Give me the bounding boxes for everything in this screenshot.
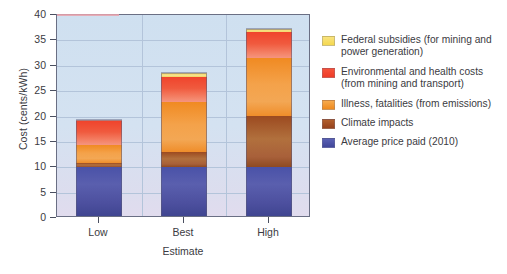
bar-segment[interactable]: [246, 116, 292, 167]
y-tick-label: 10: [2, 160, 46, 172]
x-tick: [183, 217, 184, 223]
x-tick-label: Low: [58, 226, 138, 238]
legend-item-label: Climate impacts: [341, 117, 413, 129]
legend-swatch-icon: [322, 138, 335, 148]
y-tick-label: 30: [2, 59, 46, 71]
y-tick-label: 40: [2, 8, 46, 20]
category-divider: [142, 15, 143, 216]
bar-high[interactable]: [246, 13, 292, 216]
legend-swatch-icon: [322, 100, 335, 110]
bar-segment[interactable]: [161, 77, 207, 102]
legend-item-label: Environmental and health costs (from min…: [341, 66, 507, 91]
y-tick-label: 20: [2, 110, 46, 122]
bar-best[interactable]: [161, 13, 207, 216]
legend-item[interactable]: Federal subsidies (for mining and power …: [322, 34, 507, 59]
legend-item[interactable]: Average price paid (2010): [322, 136, 507, 148]
legend-item[interactable]: Climate impacts: [322, 117, 507, 129]
x-axis-title: Estimate: [56, 245, 310, 257]
bar-segment[interactable]: [161, 102, 207, 152]
bar-cap: [246, 28, 292, 29]
bar-low[interactable]: [76, 13, 122, 216]
bar-segment[interactable]: [161, 152, 207, 167]
figure: Cost (cents/kWh) 0510152025303540 LowBes…: [0, 0, 507, 274]
bar-segment[interactable]: [246, 32, 292, 58]
legend-swatch-icon: [322, 36, 335, 46]
bar-segment[interactable]: [76, 163, 122, 167]
y-tick-label: 0: [2, 211, 46, 223]
bar-segment[interactable]: [76, 120, 122, 145]
legend-swatch-icon: [322, 119, 335, 129]
y-tick-label: 15: [2, 135, 46, 147]
bar-segment[interactable]: [76, 145, 122, 163]
legend-item-label: Federal subsidies (for mining and power …: [341, 34, 507, 59]
legend-swatch-icon: [322, 68, 335, 78]
y-tick-label: 35: [2, 33, 46, 45]
bar-segment[interactable]: [76, 167, 122, 216]
bar-segment[interactable]: [161, 167, 207, 216]
x-tick-label: High: [228, 226, 308, 238]
bar-cap: [76, 119, 122, 120]
x-tick-label: Best: [143, 226, 223, 238]
bar-segment[interactable]: [246, 167, 292, 216]
legend-item-label: Illness, fatalities (from emissions): [341, 98, 491, 110]
y-tick-label: 25: [2, 84, 46, 96]
legend-item-label: Average price paid (2010): [341, 136, 458, 148]
bar-segment[interactable]: [161, 73, 207, 77]
legend-item[interactable]: Illness, fatalities (from emissions): [322, 98, 507, 110]
legend: Federal subsidies (for mining and power …: [322, 34, 507, 156]
plot-area: [56, 14, 310, 217]
chart-area: Cost (cents/kWh) 0510152025303540 LowBes…: [0, 0, 320, 274]
bar-segment[interactable]: [246, 29, 292, 33]
category-divider: [226, 15, 227, 216]
bar-cap: [161, 72, 207, 73]
legend-item[interactable]: Environmental and health costs (from min…: [322, 66, 507, 91]
x-tick: [98, 217, 99, 223]
x-tick: [268, 217, 269, 223]
y-tick: [50, 217, 56, 218]
y-tick-label: 5: [2, 186, 46, 198]
bar-segment[interactable]: [246, 58, 292, 116]
